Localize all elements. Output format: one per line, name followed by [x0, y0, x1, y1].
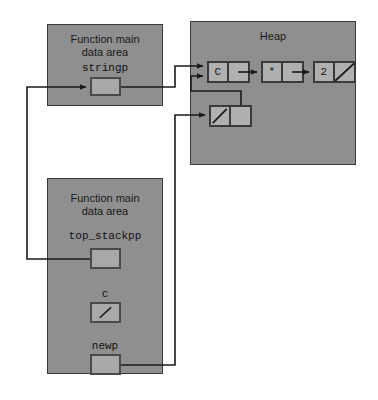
label-c: c	[47, 288, 163, 300]
heap-node-two-data: 2	[315, 63, 335, 81]
heap-node-c-next	[229, 63, 249, 81]
diagram-canvas: Function main data area stringp Heap C *…	[0, 0, 378, 400]
region-heap: Heap	[190, 21, 356, 165]
heap-node-c: C	[207, 61, 250, 83]
c-null-value-icon	[92, 304, 119, 321]
box-newp	[90, 354, 121, 375]
label-top-stackpp: top_stackpp	[47, 230, 163, 242]
heap-node-star-data: *	[263, 63, 283, 81]
heap-node-star-next	[283, 63, 303, 81]
box-top-stackpp	[90, 248, 121, 269]
label-newp: newp	[47, 340, 163, 352]
heap-node-new-data-null-icon	[211, 107, 231, 125]
heap-node-new	[209, 105, 252, 127]
region-heap-title: Heap	[191, 30, 355, 43]
box-c	[90, 302, 121, 323]
heap-node-two: 2	[313, 61, 356, 83]
heap-node-two-null-pointer-icon	[335, 63, 355, 81]
label-stringp: stringp	[47, 62, 163, 74]
region-top-stack-frame-title: Function main data area	[48, 33, 162, 59]
region-bottom-stack-frame-title: Function main data area	[48, 192, 162, 218]
heap-node-star: *	[261, 61, 304, 83]
heap-node-c-data: C	[209, 63, 229, 81]
heap-node-new-next	[231, 107, 251, 125]
box-stringp	[90, 77, 121, 96]
